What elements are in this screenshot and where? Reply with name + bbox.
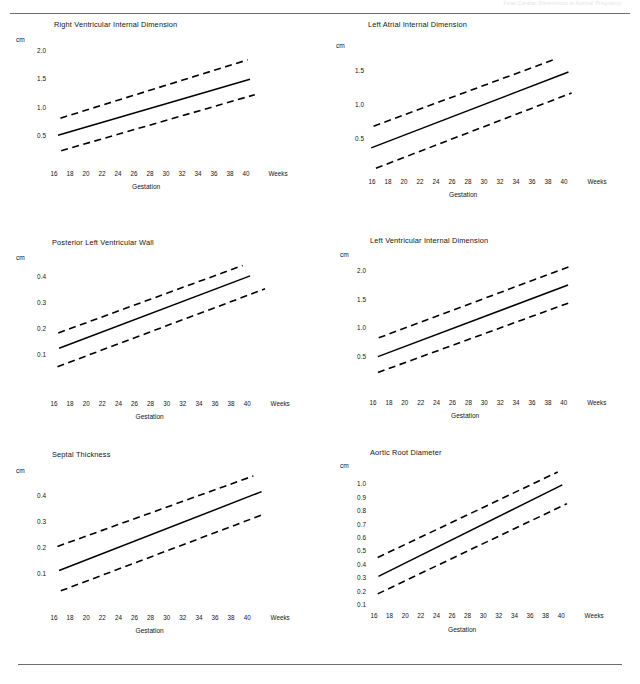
y-tick-label: 1.5 — [334, 67, 364, 74]
y-tick-label: 0.5 — [338, 353, 366, 360]
page-header: Fetal Cardiac Dimensions in Normal Pregn… — [0, 0, 640, 14]
series-line-mean — [58, 79, 250, 135]
chart-panel-left-atrial-internal-dimension: Left Atrial Internal Dimensioncm0.51.01.… — [318, 18, 628, 232]
x-tick-label: 40 — [237, 170, 255, 177]
y-axis-unit-label-left-ventricular-internal-dimension: cm — [340, 251, 349, 258]
series-line-2-sd — [61, 95, 255, 151]
y-tick-label: 0.4 — [338, 561, 366, 568]
x-axis-weeks-label: Weeks — [582, 178, 612, 185]
y-tick-label: 0.1 — [338, 601, 366, 608]
x-tick-label: 40 — [555, 399, 573, 406]
x-axis-weeks-label: Weeks — [579, 612, 609, 619]
plot-area-left-ventricular-internal-dimension — [370, 260, 576, 385]
y-tick-label: 0.3 — [338, 574, 366, 581]
x-axis-label-left-ventricular-internal-dimension: Gestation — [451, 412, 479, 419]
x-tick-label: 40 — [552, 612, 570, 619]
x-axis-weeks-label: Weeks — [265, 400, 295, 407]
y-tick-label: 0.1 — [16, 351, 46, 358]
x-axis-label-septal-thickness: Gestation — [136, 627, 164, 634]
chart-title-right-ventricular-internal-dimension: Right Ventricular Internal Dimension — [54, 20, 177, 29]
chart-title-septal-thickness: Septal Thickness — [52, 450, 111, 459]
y-tick-label: 0.2 — [338, 588, 366, 595]
plot-area-aortic-root-diameter — [370, 468, 570, 608]
series-line-mean — [59, 276, 250, 348]
y-tick-label: 0.2 — [16, 325, 46, 332]
y-tick-label: 0.7 — [338, 521, 366, 528]
chart-title-posterior-left-ventricular-wall: Posterior Left Ventricular Wall — [52, 238, 154, 247]
chart-panel-posterior-left-ventricular-wall: Posterior Left Ventricular Wallcm0.10.20… — [8, 232, 318, 446]
series-line-mean — [59, 492, 262, 571]
chart-panel-aortic-root-diameter: Aortic Root Diametercm0.10.20.30.40.50.6… — [318, 446, 628, 660]
x-axis-weeks-label: Weeks — [582, 399, 612, 406]
series-line-mean — [378, 485, 562, 577]
y-tick-label: 2.0 — [16, 47, 46, 54]
series-line-2-sd — [378, 504, 567, 594]
footer-divider-rule — [18, 664, 622, 665]
y-axis-unit-label-left-atrial-internal-dimension: cm — [336, 42, 345, 49]
y-tick-label: 0.3 — [16, 518, 46, 525]
x-axis-weeks-label: Weeks — [265, 614, 295, 621]
y-tick-label: 1.5 — [16, 75, 46, 82]
series-line-2-sd — [376, 93, 572, 168]
chart-panel-right-ventricular-internal-dimension: Right Ventricular Internal Dimensioncm0.… — [8, 18, 318, 232]
chart-title-aortic-root-diameter: Aortic Root Diameter — [370, 448, 442, 457]
plot-area-left-atrial-internal-dimension — [368, 51, 574, 173]
series-line-2-sd — [379, 267, 569, 338]
x-axis-label-aortic-root-diameter: Gestation — [448, 626, 476, 633]
series-line-2-sd — [57, 476, 253, 547]
y-tick-label: 0.4 — [16, 492, 46, 499]
chart-panel-grid: Right Ventricular Internal Dimensioncm0.… — [0, 18, 640, 662]
y-axis-unit-label-right-ventricular-internal-dimension: cm — [16, 36, 25, 43]
y-tick-label: 1.0 — [334, 101, 364, 108]
y-tick-label: 1.0 — [16, 104, 46, 111]
y-axis-unit-label-septal-thickness: cm — [16, 467, 25, 474]
y-tick-label: 1.0 — [338, 480, 366, 487]
plot-area-right-ventricular-internal-dimension — [50, 45, 258, 165]
y-tick-label: 0.4 — [16, 273, 46, 280]
x-axis-label-left-atrial-internal-dimension: Gestation — [449, 191, 477, 198]
series-line-2-sd — [374, 59, 555, 126]
y-axis-unit-label-aortic-root-diameter: cm — [340, 462, 349, 469]
header-divider-rule — [10, 13, 630, 14]
y-tick-label: 1.5 — [338, 296, 366, 303]
series-line-mean — [378, 285, 568, 357]
chart-title-left-atrial-internal-dimension: Left Atrial Internal Dimension — [368, 20, 467, 29]
x-tick-label: 40 — [238, 614, 256, 621]
chart-panel-septal-thickness: Septal Thicknesscm0.10.20.30.41618202224… — [8, 446, 318, 660]
x-tick-label: 40 — [238, 400, 256, 407]
y-tick-label: 0.5 — [338, 547, 366, 554]
series-line-2-sd — [57, 289, 265, 367]
x-axis-weeks-label: Weeks — [263, 170, 293, 177]
plot-area-posterior-left-ventricular-wall — [50, 259, 265, 381]
y-tick-label: 0.5 — [334, 135, 364, 142]
y-tick-label: 0.6 — [338, 534, 366, 541]
plot-area-septal-thickness — [50, 472, 265, 600]
series-line-2-sd — [378, 303, 570, 373]
y-tick-label: 0.8 — [338, 507, 366, 514]
y-tick-label: 1.0 — [338, 324, 366, 331]
x-tick-label: 40 — [555, 178, 573, 185]
y-axis-unit-label-posterior-left-ventricular-wall: cm — [16, 254, 25, 261]
series-line-mean — [371, 72, 568, 148]
running-header-text: Fetal Cardiac Dimensions in Normal Pregn… — [503, 0, 622, 6]
y-tick-label: 2.0 — [338, 267, 366, 274]
series-line-2-sd — [378, 472, 558, 557]
y-tick-label: 0.1 — [16, 570, 46, 577]
y-tick-label: 0.9 — [338, 494, 366, 501]
series-line-2-sd — [61, 514, 265, 591]
chart-title-left-ventricular-internal-dimension: Left Ventricular Internal Dimension — [370, 236, 488, 245]
series-line-2-sd — [60, 60, 247, 118]
x-axis-label-right-ventricular-internal-dimension: Gestation — [132, 183, 160, 190]
y-tick-label: 0.5 — [16, 132, 46, 139]
x-axis-label-posterior-left-ventricular-wall: Gestation — [136, 413, 164, 420]
y-tick-label: 0.3 — [16, 299, 46, 306]
y-tick-label: 0.2 — [16, 544, 46, 551]
series-line-2-sd — [58, 265, 242, 332]
chart-panel-left-ventricular-internal-dimension: Left Ventricular Internal Dimensioncm0.5… — [318, 232, 628, 446]
